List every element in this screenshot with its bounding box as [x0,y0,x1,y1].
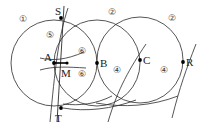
construction-figure: Compass and straightedge construction wi… [0,0,199,128]
arc-step-4-left [108,44,146,122]
point-marker-M [65,61,68,64]
figure-canvas: Compass and straightedge construction wi… [0,0,199,128]
point-marker-B [95,61,99,65]
arc-bottom-left [63,96,112,105]
point-marker-A [52,61,56,65]
point-marker-R [181,60,185,64]
arc-step-6-upper [40,52,84,60]
arc-step-4-right [172,44,196,118]
point-marker-S [59,16,63,20]
line-S-T [57,6,64,122]
point-marker-T [59,106,63,110]
arc-step-6-lower [40,67,86,70]
point-marker-C [138,58,142,62]
point-markers-group [52,16,185,110]
